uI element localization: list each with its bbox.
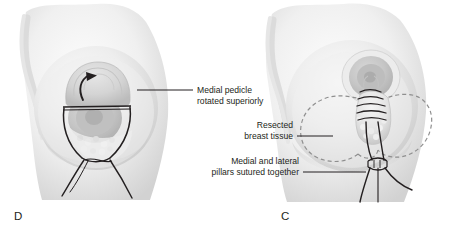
medical-illustration-figure: Medial pedicle rotated superiorly Resect… (0, 0, 460, 233)
annotation-medial-pedicle-line1: Medial pedicle (197, 85, 252, 95)
panel-letter-c: C (281, 210, 289, 222)
pedicle-base-line-left (63, 106, 131, 107)
annotation-resected-line1: Resected (257, 120, 294, 130)
annotation-resected-line2: breast tissue (244, 131, 293, 141)
annotation-pillars-line2: pillars sutured together (212, 167, 300, 177)
nipple-left (85, 109, 103, 125)
figure-container: Medial pedicle rotated superiorly Resect… (0, 0, 460, 233)
panel-letter-d: D (14, 210, 22, 222)
panel-d-illustration (22, 4, 169, 200)
annotation-pillars-line1: Medial and lateral (231, 156, 299, 166)
annotation-medial-pedicle-line2: rotated superiorly (197, 96, 264, 106)
